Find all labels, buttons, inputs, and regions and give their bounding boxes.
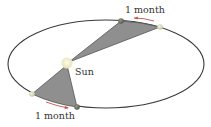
top-arrow-head-icon [134, 17, 138, 20]
planet-top-right-icon [157, 24, 163, 30]
upper-swept-area [69, 21, 160, 62]
planet-bottom-right-icon [74, 104, 80, 110]
planet-bottom-left-icon [29, 91, 35, 97]
lower-swept-area [32, 65, 77, 107]
kepler-orbit-diagram: Sun 1 month 1 month [0, 0, 211, 127]
top-interval-label: 1 month [125, 5, 165, 15]
orbit-svg [0, 0, 211, 127]
sun-icon [62, 58, 73, 69]
bottom-interval-label: 1 month [35, 111, 75, 121]
bottom-arrow-head-icon [65, 106, 70, 109]
planet-top-left-icon [118, 18, 124, 24]
sun-label: Sun [75, 67, 94, 77]
